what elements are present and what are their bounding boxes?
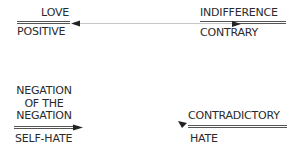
connectors-overlay bbox=[0, 0, 304, 153]
arrowhead-right-icon bbox=[232, 21, 241, 27]
arrowhead-left-icon bbox=[71, 21, 80, 27]
arrowhead-contradictory-icon bbox=[178, 121, 187, 128]
arrowhead-selfhate-icon bbox=[73, 125, 83, 131]
